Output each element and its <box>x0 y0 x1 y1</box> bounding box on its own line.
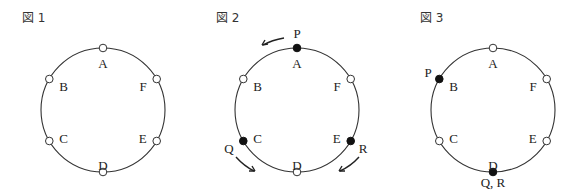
node-label-a: A <box>98 56 108 71</box>
node-b <box>46 75 54 83</box>
node-label-c: C <box>449 131 458 146</box>
node-label-c: C <box>59 131 68 146</box>
node-label-e: E <box>529 131 537 146</box>
node-b <box>240 75 248 83</box>
figure-2: 図 2 ABCDEF P Q R <box>216 11 368 176</box>
node-f <box>347 75 355 83</box>
node-c <box>436 137 444 145</box>
node-a <box>293 44 301 52</box>
marker-label-p: P <box>424 65 431 80</box>
circle-diagrams: 図 1 ABCDEF 図 2 ABCDEF P Q R 図 3 ABCDEF P… <box>0 0 585 190</box>
node-f <box>543 75 551 83</box>
node-label-e: E <box>139 131 147 146</box>
node-e <box>153 137 161 145</box>
node-label-b: B <box>253 79 262 94</box>
node-label-e: E <box>333 131 341 146</box>
node-label-f: F <box>333 79 340 94</box>
marker-label-p: P <box>293 26 300 41</box>
node-e <box>347 137 355 145</box>
node-label-d: D <box>488 158 497 173</box>
node-label-b: B <box>449 79 458 94</box>
node-f <box>153 75 161 83</box>
node-label-a: A <box>488 56 498 71</box>
node-label-f: F <box>139 79 146 94</box>
node-a <box>489 44 497 52</box>
node-b <box>436 75 444 83</box>
arrow-r-cw <box>340 157 359 171</box>
node-label-d: D <box>292 158 301 173</box>
node-label-d: D <box>98 158 107 173</box>
node-label-a: A <box>292 56 302 71</box>
figure-title: 図 3 <box>420 11 443 25</box>
marker-label-r: R <box>359 141 368 156</box>
marker-label-q: Q <box>224 141 234 156</box>
node-e <box>543 137 551 145</box>
node-label-f: F <box>529 79 536 94</box>
arrow-q-ccw <box>236 157 254 171</box>
node-label-c: C <box>253 131 262 146</box>
figure-title: 図 2 <box>216 11 239 25</box>
marker-label-qr: Q, R <box>481 175 506 190</box>
node-c <box>240 137 248 145</box>
node-c <box>46 137 54 145</box>
figure-3: 図 3 ABCDEF P Q, R <box>420 11 555 190</box>
node-a <box>99 44 107 52</box>
figure-title: 図 1 <box>22 11 45 25</box>
figure-1: 図 1 ABCDEF <box>22 11 165 176</box>
node-label-b: B <box>59 79 68 94</box>
